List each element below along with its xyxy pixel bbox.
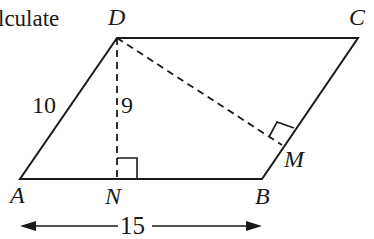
segment-dm xyxy=(117,38,282,145)
arrow-right-icon xyxy=(246,221,262,231)
vertex-label-b: B xyxy=(255,183,270,209)
vertex-label-a: A xyxy=(8,182,25,208)
vertex-label-d: D xyxy=(107,4,125,30)
diagram-canvas: lculate D C A B N M 10 9 15 xyxy=(0,0,374,239)
instruction-fragment: lculate xyxy=(0,6,59,31)
point-label-n: N xyxy=(104,183,123,209)
base-length-ab: 15 xyxy=(120,212,145,239)
point-label-m: M xyxy=(283,146,306,172)
right-angle-n-icon xyxy=(117,158,137,179)
vertex-label-c: C xyxy=(349,4,366,30)
parallelogram-diagram: lculate D C A B N M 10 9 15 xyxy=(0,0,374,239)
right-angle-m-icon xyxy=(269,122,294,137)
arrow-left-icon xyxy=(20,221,36,231)
side-length-ad: 10 xyxy=(32,92,56,118)
height-value-dn: 9 xyxy=(121,92,133,118)
parallelogram-abcd xyxy=(20,38,358,179)
